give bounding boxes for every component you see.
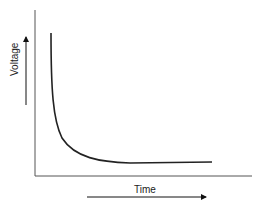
y-axis-label: Voltage: [9, 43, 20, 76]
decay-diagram: [0, 0, 265, 210]
x-axis-label: Time: [134, 184, 156, 195]
voltage-curve: [51, 33, 212, 163]
